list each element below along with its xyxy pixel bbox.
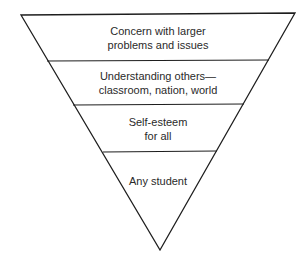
level-3-line-2: for all	[58, 129, 258, 143]
level-divider-1	[47, 60, 269, 61]
level-2-line-2: classroom, nation, world	[58, 83, 258, 97]
level-2-line-1: Understanding others—	[58, 69, 258, 83]
inverted-triangle-diagram: Concern with larger problems and issues …	[0, 0, 307, 268]
level-4-label: Any student	[58, 174, 258, 188]
level-3-label: Self-esteem for all	[58, 115, 258, 143]
level-4-line-1: Any student	[58, 174, 258, 188]
level-1-line-2: problems and issues	[58, 38, 258, 52]
level-3-line-1: Self-esteem	[58, 115, 258, 129]
level-divider-2	[73, 104, 244, 105]
level-1-label: Concern with larger problems and issues	[58, 24, 258, 52]
level-divider-3	[103, 151, 217, 152]
level-1-line-1: Concern with larger	[58, 24, 258, 38]
level-2-label: Understanding others— classroom, nation,…	[58, 69, 258, 97]
